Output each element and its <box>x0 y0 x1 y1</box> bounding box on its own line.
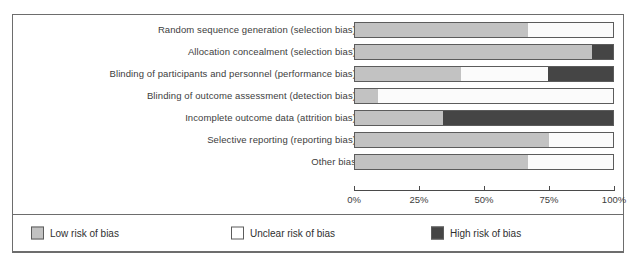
row-label: Other bias <box>311 154 356 170</box>
axis-tick <box>484 186 485 191</box>
bar-segment-unclear <box>461 67 549 81</box>
stacked-bar <box>354 110 614 126</box>
legend-item-unclear-risk: Unclear risk of bias <box>231 227 335 240</box>
row-label: Incomplete outcome data (attrition bias) <box>185 110 356 126</box>
bar-segment-low <box>355 89 378 103</box>
table-row: Blinding of outcome assessment (detectio… <box>13 88 623 104</box>
axis-tick-label: 25% <box>409 194 428 205</box>
axis-tick <box>549 186 550 191</box>
stacked-bar <box>354 154 614 170</box>
table-row: Other bias <box>13 154 623 170</box>
legend-item-high-risk: High risk of bias <box>431 227 521 240</box>
stacked-bar <box>354 132 614 148</box>
bar-segment-low <box>355 67 461 81</box>
row-label: Random sequence generation (selection bi… <box>158 22 356 38</box>
row-label: Allocation concealment (selection bias) <box>188 44 356 60</box>
table-row: Selective reporting (reporting bias) <box>13 132 623 148</box>
bar-segment-low <box>355 23 528 37</box>
bar-segment-low <box>355 111 443 125</box>
axis-tick <box>419 186 420 191</box>
stacked-bar <box>354 66 614 82</box>
legend-swatch-low-risk <box>31 227 44 240</box>
axis-tick <box>614 186 615 191</box>
legend: Low risk of bias Unclear risk of bias Hi… <box>12 214 624 252</box>
legend-label: Low risk of bias <box>50 228 119 239</box>
axis-tick-label: 100% <box>602 194 626 205</box>
bar-segment-high <box>592 45 613 59</box>
bar-segment-unclear <box>378 89 613 103</box>
bar-segment-low <box>355 155 528 169</box>
table-row: Random sequence generation (selection bi… <box>13 22 623 38</box>
bar-segment-high <box>548 67 613 81</box>
plot-area: Random sequence generation (selection bi… <box>13 15 623 190</box>
row-label: Selective reporting (reporting bias) <box>207 132 356 148</box>
table-row: Allocation concealment (selection bias) <box>13 44 623 60</box>
axis-tick-label: 75% <box>539 194 558 205</box>
legend-swatch-unclear-risk <box>231 227 244 240</box>
legend-item-low-risk: Low risk of bias <box>31 227 119 240</box>
axis-tick-label: 0% <box>347 194 361 205</box>
bar-segment-unclear <box>528 155 613 169</box>
stacked-bar <box>354 22 614 38</box>
stacked-bar <box>354 44 614 60</box>
axis-tick-label: 50% <box>474 194 493 205</box>
bar-segment-high <box>443 111 613 125</box>
bar-segment-low <box>355 133 549 147</box>
stacked-bar <box>354 88 614 104</box>
bar-segment-unclear <box>549 133 614 147</box>
bar-rows: Random sequence generation (selection bi… <box>13 22 623 176</box>
legend-label: Unclear risk of bias <box>250 228 335 239</box>
risk-of-bias-graph: Random sequence generation (selection bi… <box>0 0 638 266</box>
legend-swatch-high-risk <box>431 227 444 240</box>
bar-segment-unclear <box>528 23 613 37</box>
row-label: Blinding of participants and personnel (… <box>109 66 356 82</box>
bar-segment-low <box>355 45 592 59</box>
row-label: Blinding of outcome assessment (detectio… <box>147 88 356 104</box>
legend-label: High risk of bias <box>450 228 521 239</box>
table-row: Blinding of participants and personnel (… <box>13 66 623 82</box>
axis-tick <box>354 186 355 191</box>
table-row: Incomplete outcome data (attrition bias) <box>13 110 623 126</box>
